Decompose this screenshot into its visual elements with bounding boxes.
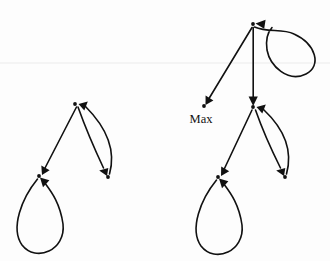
edge-lower-right-to-top: [79, 102, 112, 174]
arrow-head-icon: [276, 168, 285, 176]
node-max[interactable]: [202, 104, 206, 108]
figure-canvas: Max: [0, 0, 330, 261]
arrow-head-icon: [79, 102, 88, 111]
edge-line: [255, 27, 316, 76]
edge-line: [86, 107, 112, 175]
node-lower-right[interactable]: [283, 175, 287, 179]
edge-line: [196, 180, 242, 254]
edge-top-to-max: [206, 28, 253, 106]
left-transition-graph: [17, 102, 111, 254]
node-lower-right[interactable]: [106, 175, 110, 179]
arrow-head-icon: [257, 105, 266, 114]
arrow-head-icon: [249, 97, 258, 106]
edge-middle-to-lower-right: [256, 110, 286, 176]
node-middle[interactable]: [251, 105, 255, 109]
graph-svg: Max: [0, 0, 330, 261]
node-lower-left[interactable]: [37, 174, 41, 178]
edge-middle-to-lower-left: [221, 110, 252, 176]
self-loop-lower-left: [196, 179, 242, 255]
node-top[interactable]: [251, 22, 255, 26]
node-top[interactable]: [73, 102, 77, 106]
arrow-head-icon: [219, 179, 228, 189]
edge-top-to-lower-left: [41, 107, 76, 175]
edge-line: [78, 107, 104, 168]
edge-line: [224, 110, 252, 170]
self-loop-lower-left: [17, 178, 63, 254]
self-loop-top: [255, 20, 316, 77]
edge-line: [45, 107, 77, 169]
node-lower-left[interactable]: [216, 175, 220, 179]
edge-lower-right-to-middle: [257, 105, 289, 174]
node-label-max: Max: [190, 112, 214, 126]
arrow-head-icon: [99, 168, 108, 176]
edge-top-to-middle: [249, 28, 258, 107]
arrow-head-icon: [40, 178, 49, 188]
edge-top-to-lower-right: [78, 107, 108, 176]
right-transition-graph: Max: [190, 20, 316, 255]
edge-line: [256, 110, 281, 168]
edge-line: [209, 28, 252, 99]
edge-line: [17, 179, 63, 253]
